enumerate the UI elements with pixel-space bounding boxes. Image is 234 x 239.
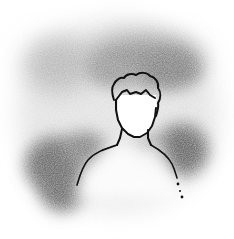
silhouette-artwork — [0, 0, 234, 239]
illustration: Grayscale illustration of a head-and-sho… — [0, 0, 234, 239]
